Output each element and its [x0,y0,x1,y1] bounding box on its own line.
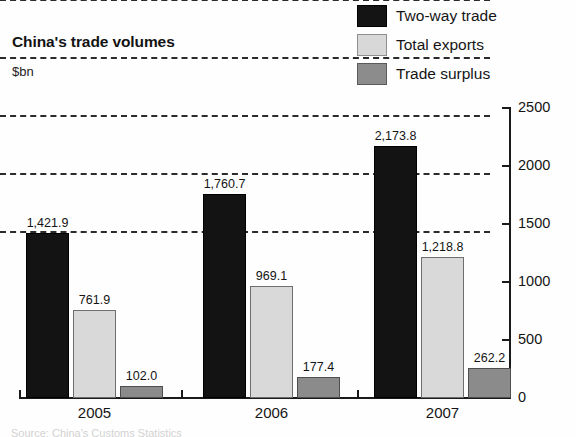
y-tick-label-1500: 1500 [518,215,550,231]
gridline-1500 [0,115,490,117]
bar-value-2005-surplus: 102.0 [107,369,176,383]
bar-2005-twoway [26,233,69,398]
legend-item-trade-surplus: Trade surplus [357,60,572,87]
bar-value-2006-twoway: 1,760.7 [190,177,259,191]
chart-figure: China's trade volumes $bn Two-way trade … [0,0,576,437]
y-tick-label-0: 0 [518,389,526,405]
y-tick-mark-1000 [502,281,511,283]
units-label: $bn [12,64,34,79]
gridline-2000 [0,57,490,59]
page-title: China's trade volumes [12,33,175,51]
y-tick-mark-2000 [502,165,511,167]
x-axis-tick-0 [19,390,21,398]
legend: Two-way trade Total exports Trade surplu… [357,2,572,89]
legend-item-two-way-trade: Two-way trade [357,2,572,29]
bar-2006-exports [250,286,293,398]
y-tick-mark-2500 [502,107,511,109]
y-tick-mark-1500 [502,223,511,225]
bar-2007-exports [421,257,464,398]
x-tick-label-2006: 2006 [232,404,312,421]
bar-value-2007-twoway: 2,173.8 [361,129,430,143]
legend-label-trade-surplus: Trade surplus [396,65,490,83]
bar-2005-exports [73,310,116,398]
x-axis-tick-1 [181,390,183,398]
bar-value-2005-exports: 761.9 [60,293,129,307]
bar-2006-surplus [297,377,340,398]
bar-2007-twoway [374,146,417,398]
source-note: Source: China's Customs Statistics [11,427,182,437]
bar-value-2006-surplus: 177.4 [284,360,353,374]
legend-swatch-total-exports [357,34,387,56]
legend-swatch-trade-surplus [357,63,387,85]
legend-swatch-two-way-trade [357,5,387,27]
x-tick-label-2007: 2007 [403,404,483,421]
x-axis-tick-2 [357,390,359,398]
bar-value-2007-exports: 1,218.8 [408,240,477,254]
legend-item-total-exports: Total exports [357,31,572,58]
bar-value-2006-exports: 969.1 [237,269,306,283]
bar-2005-surplus [120,386,163,398]
bar-2006-twoway [203,194,246,398]
y-tick-mark-500 [502,339,511,341]
gridline-2500 [0,0,490,1]
y-tick-label-2500: 2500 [518,99,550,115]
legend-label-total-exports: Total exports [396,36,484,54]
y-tick-label-2000: 2000 [518,157,550,173]
bar-2007-surplus [468,368,511,398]
legend-label-two-way-trade: Two-way trade [396,7,497,25]
y-tick-label-500: 500 [518,331,542,347]
bar-value-2005-twoway: 1,421.9 [13,216,82,230]
x-tick-label-2005: 2005 [55,404,135,421]
y-tick-label-1000: 1000 [518,273,550,289]
bar-value-2007-surplus: 262.2 [455,351,524,365]
